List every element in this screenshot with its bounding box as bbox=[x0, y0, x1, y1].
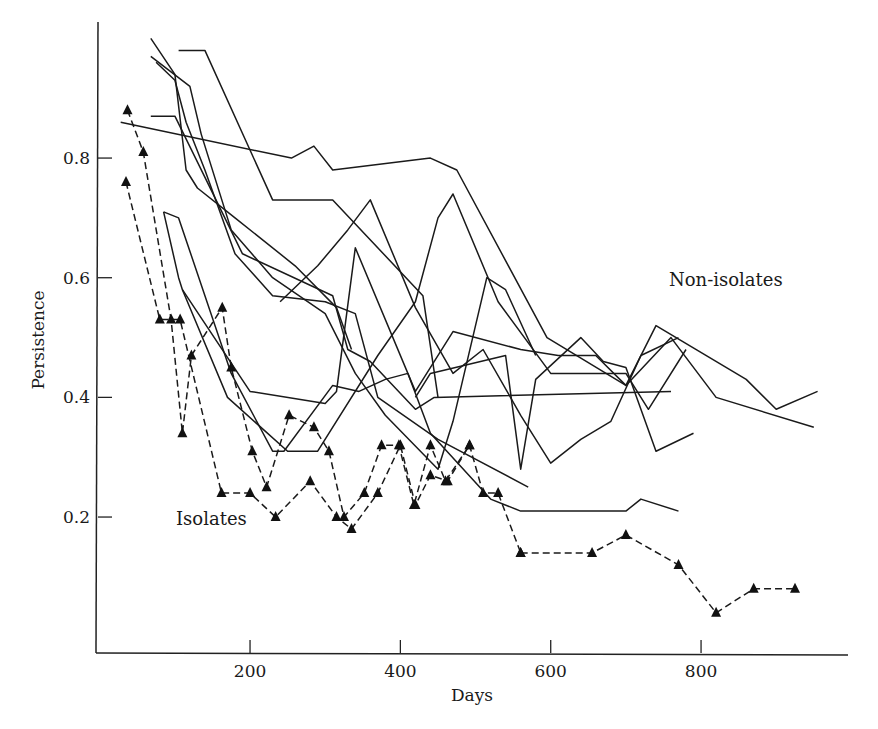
triangle-marker-icon bbox=[217, 302, 227, 312]
triangle-marker-icon bbox=[478, 487, 488, 497]
ticks: 2004006008000.20.40.60.8 bbox=[63, 148, 717, 681]
triangle-marker-icon bbox=[359, 487, 369, 497]
y-tick-label: 0.6 bbox=[63, 268, 90, 288]
triangle-marker-icon bbox=[177, 427, 187, 437]
non-isolate-series-line bbox=[151, 38, 352, 349]
x-tick-label: 800 bbox=[685, 661, 717, 681]
y-axis-line bbox=[96, 22, 98, 653]
triangle-marker-icon bbox=[216, 487, 226, 497]
y-axis-title: Persistence bbox=[28, 290, 48, 389]
non-isolate-series-line bbox=[280, 200, 678, 463]
triangle-marker-icon bbox=[138, 146, 148, 156]
non-isolate-series-line bbox=[179, 50, 438, 397]
triangle-marker-icon bbox=[621, 529, 631, 539]
triangle-marker-icon bbox=[247, 445, 257, 455]
triangle-marker-icon bbox=[155, 314, 165, 324]
non-isolate-series-line bbox=[151, 56, 536, 469]
triangle-marker-icon bbox=[245, 487, 255, 497]
triangle-marker-icon bbox=[373, 487, 383, 497]
triangle-marker-icon bbox=[123, 104, 133, 114]
x-tick-label: 600 bbox=[534, 661, 566, 681]
non-isolate-series-line bbox=[164, 212, 818, 409]
y-tick-label: 0.2 bbox=[63, 507, 90, 527]
triangle-marker-icon bbox=[121, 176, 131, 186]
triangle-marker-icon bbox=[175, 314, 185, 324]
y-tick-label: 0.4 bbox=[63, 387, 90, 407]
x-tick-label: 400 bbox=[384, 661, 416, 681]
triangle-marker-icon bbox=[262, 481, 272, 491]
triangle-marker-icon bbox=[790, 583, 800, 593]
triangle-marker-icon bbox=[166, 314, 176, 324]
triangle-marker-icon bbox=[425, 439, 435, 449]
triangle-marker-icon bbox=[674, 559, 684, 569]
triangle-marker-icon bbox=[749, 583, 759, 593]
x-axis-line bbox=[96, 653, 848, 655]
isolate-series-line bbox=[521, 535, 795, 613]
non-isolates-annotation: Non-isolates bbox=[669, 269, 783, 290]
triangle-marker-icon bbox=[516, 547, 526, 557]
persistence-chart: 2004006008000.20.40.60.8 Days Persistenc… bbox=[0, 0, 878, 729]
triangle-marker-icon bbox=[465, 439, 475, 449]
y-tick-label: 0.8 bbox=[63, 148, 90, 168]
non-isolate-series-line bbox=[182, 194, 686, 451]
triangle-marker-icon bbox=[377, 439, 387, 449]
triangle-marker-icon bbox=[493, 487, 503, 497]
triangle-marker-icon bbox=[425, 469, 435, 479]
plot-lines bbox=[121, 38, 818, 616]
triangle-marker-icon bbox=[284, 409, 294, 419]
isolates-annotation: Isolates bbox=[176, 508, 247, 529]
triangle-marker-icon bbox=[305, 475, 315, 485]
triangle-marker-icon bbox=[587, 547, 597, 557]
non-isolate-series-line bbox=[156, 62, 528, 487]
x-tick-label: 200 bbox=[234, 661, 266, 681]
x-axis-title: Days bbox=[451, 685, 493, 705]
